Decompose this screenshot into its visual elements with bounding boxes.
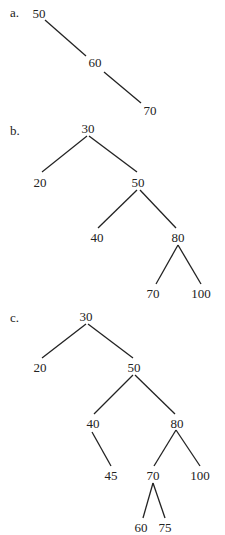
node-a-50: 50 [33, 7, 46, 20]
node-c-70: 70 [147, 469, 160, 482]
node-b-100: 100 [191, 287, 211, 300]
node-c-30: 30 [80, 310, 93, 323]
node-c-45: 45 [105, 469, 118, 482]
node-c-20: 20 [34, 361, 47, 374]
node-b-70: 70 [147, 287, 160, 300]
part-a-label: a. [10, 6, 19, 19]
node-b-80: 80 [172, 231, 185, 244]
node-b-20: 20 [34, 176, 47, 189]
node-b-50: 50 [132, 176, 145, 189]
node-b-30: 30 [82, 122, 95, 135]
node-c-100: 100 [190, 469, 210, 482]
node-c-80: 80 [171, 417, 184, 430]
node-c-40: 40 [87, 417, 100, 430]
node-b-40: 40 [91, 231, 104, 244]
node-c-60: 60 [135, 521, 148, 534]
node-a-70: 70 [144, 104, 157, 117]
part-b-label: b. [10, 124, 20, 137]
node-c-50: 50 [128, 361, 141, 374]
tree-edges [0, 0, 225, 535]
part-c-label: c. [10, 311, 19, 324]
node-a-60: 60 [89, 56, 102, 69]
node-c-75: 75 [159, 521, 172, 534]
